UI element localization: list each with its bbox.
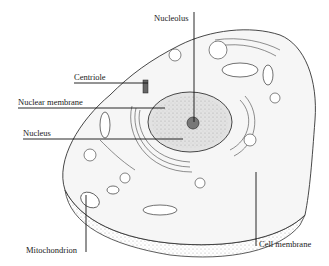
label-nucleolus: Nucleolus: [154, 13, 188, 23]
label-cell-membrane: Cell membrane: [259, 239, 311, 249]
label-mitochondrion: Mitochondrion: [26, 245, 77, 255]
centriole-shape: [143, 80, 148, 93]
label-nuclear-membrane: Nuclear membrane: [18, 97, 83, 107]
mitochondrion-shape: [222, 63, 258, 77]
label-nucleus: Nucleus: [23, 128, 51, 138]
nucleolus-shape: [187, 117, 199, 129]
label-centriole: Centriole: [74, 72, 106, 82]
cell-diagram: Nucleolus Centriole Nuclear membrane Nuc…: [0, 0, 329, 266]
